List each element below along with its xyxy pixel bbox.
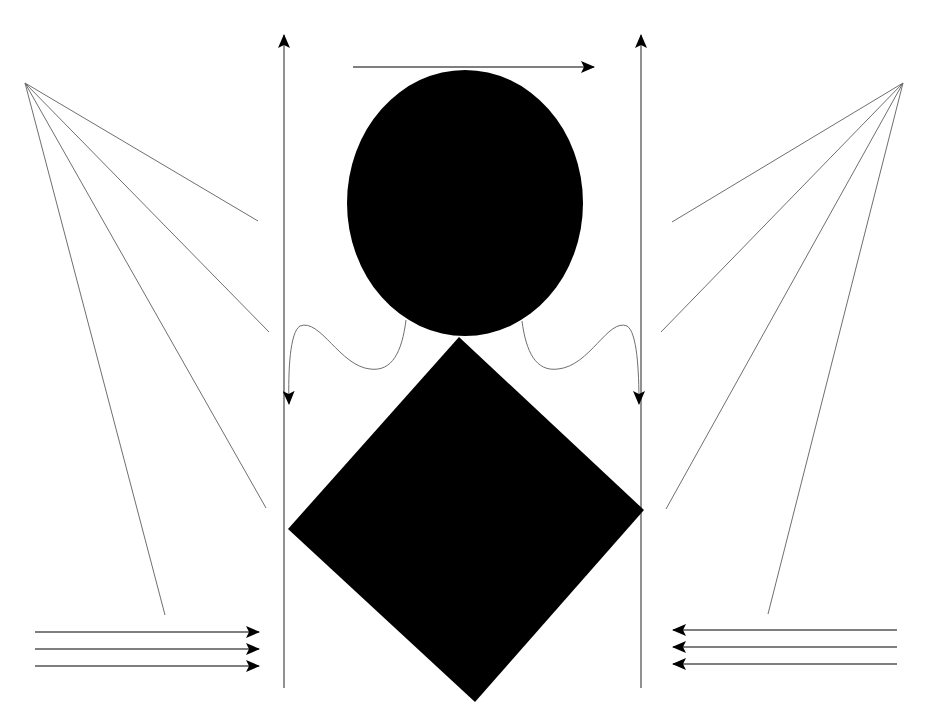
diagram-canvas [0,0,936,723]
fan-line [666,83,903,509]
fan-line [25,83,266,508]
wavy-arrow-left [289,320,406,404]
fan-line [768,83,903,614]
right-arrow-group [673,630,897,664]
wavy-arrow-right [522,321,639,404]
left-arrow-group [35,632,259,666]
fan-line [25,83,258,221]
black-diamond [288,337,644,702]
right-fan-lines [661,83,903,614]
black-ellipse [347,70,583,336]
fan-line [25,83,269,332]
fan-line [661,83,903,332]
left-fan-lines [25,83,269,615]
fan-line [25,83,165,615]
